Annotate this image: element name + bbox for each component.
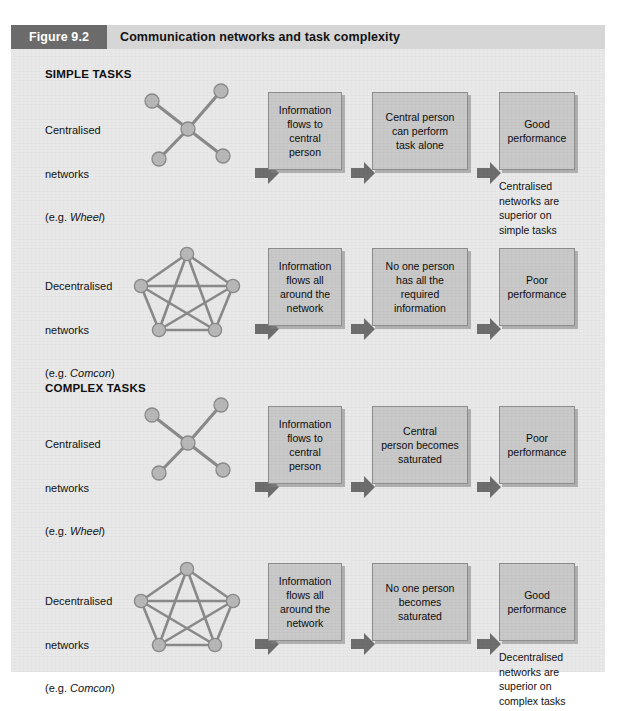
figure-number-tag: Figure 9.2 bbox=[11, 25, 107, 49]
row-label-line3: (e.g. Wheel) bbox=[45, 524, 105, 539]
network-diagram-wheel-complex bbox=[135, 394, 245, 498]
row-label-simple-decentralised: Decentralised networks (e.g. Comcon) bbox=[45, 250, 115, 410]
process-box-text: Central person becomes saturated bbox=[381, 424, 459, 466]
process-box: No one person has all the required infor… bbox=[372, 248, 468, 326]
section-heading-simple-tasks: SIMPLE TASKS bbox=[45, 68, 132, 80]
figure-header: Figure 9.2 Communication networks and ta… bbox=[11, 25, 605, 49]
process-box: No one person becomes saturated bbox=[372, 563, 468, 641]
row-label-complex-centralised: Centralised networks (e.g. Wheel) bbox=[45, 408, 105, 568]
process-box-text: Information flows to central person bbox=[279, 103, 332, 159]
process-box: Poor performance bbox=[499, 248, 575, 326]
row-label-line3: (e.g. Wheel) bbox=[45, 210, 105, 225]
figure-title: Communication networks and task complexi… bbox=[107, 25, 605, 49]
process-box-text: No one person becomes saturated bbox=[386, 581, 455, 623]
process-box-text: Central person can perform task alone bbox=[386, 110, 455, 152]
process-box: Central person becomes saturated bbox=[372, 406, 468, 484]
row-label-line2: networks bbox=[45, 323, 115, 338]
process-box: Information flows all around the network bbox=[268, 563, 342, 641]
process-box: Good performance bbox=[499, 92, 575, 170]
process-box-text: Information flows all around the network bbox=[279, 574, 332, 630]
process-box: Information flows to central person bbox=[268, 92, 342, 170]
network-diagram-comcon-simple bbox=[129, 242, 245, 346]
outcome-note: Centralised networks are superior on sim… bbox=[499, 179, 595, 237]
row-label-line1: Decentralised bbox=[45, 279, 115, 294]
row-label-complex-decentralised: Decentralised networks (e.g. Comcon) bbox=[45, 565, 115, 711]
row-label-line1: Centralised bbox=[45, 123, 105, 138]
process-box: Poor performance bbox=[499, 406, 575, 484]
row-label-line1: Decentralised bbox=[45, 594, 115, 609]
row-label-line2: networks bbox=[45, 167, 105, 182]
row-label-simple-centralised: Centralised networks (e.g. Wheel) bbox=[45, 94, 105, 254]
row-label-line2: networks bbox=[45, 638, 115, 653]
process-box-text: Information flows to central person bbox=[279, 417, 332, 473]
process-box-text: Good performance bbox=[508, 588, 567, 616]
process-box: Central person can perform task alone bbox=[372, 92, 468, 170]
process-box-text: No one person has all the required infor… bbox=[386, 259, 455, 315]
figure-body-panel: SIMPLE TASKS COMPLEX TASKS Centralised n… bbox=[11, 49, 605, 672]
row-label-line1: Centralised bbox=[45, 437, 105, 452]
network-diagram-wheel-simple bbox=[135, 80, 245, 184]
row-label-line3: (e.g. Comcon) bbox=[45, 366, 115, 381]
outcome-note: Decentralised networks are superior on c… bbox=[499, 650, 599, 708]
process-box-text: Information flows all around the network bbox=[279, 259, 332, 315]
process-box-text: Poor performance bbox=[508, 431, 567, 459]
process-box-text: Good performance bbox=[508, 117, 567, 145]
row-label-line3: (e.g. Comcon) bbox=[45, 681, 115, 696]
process-box: Information flows to central person bbox=[268, 406, 342, 484]
row-label-line2: networks bbox=[45, 481, 105, 496]
network-diagram-comcon-complex bbox=[129, 557, 245, 661]
process-box: Good performance bbox=[499, 563, 575, 641]
process-box-text: Poor performance bbox=[508, 273, 567, 301]
process-box: Information flows all around the network bbox=[268, 248, 342, 326]
